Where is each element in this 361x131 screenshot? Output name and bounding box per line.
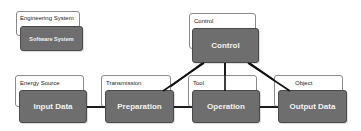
legend-engineering-system-label: Engineering System xyxy=(20,15,74,21)
output-data-node: Output Data xyxy=(278,90,347,123)
legend-software-system-label: Software System xyxy=(29,36,73,42)
control-node-label: Control xyxy=(211,41,239,50)
legend-software-system-box: Software System xyxy=(20,26,83,51)
operation-node-label: Operation xyxy=(207,102,245,111)
energy-source-category-label: Energy Source xyxy=(20,80,60,86)
control-category-label: Control xyxy=(194,18,213,24)
tool-category-label: Tool xyxy=(193,80,204,86)
output-data-node-label: Output Data xyxy=(290,102,336,111)
control-node: Control xyxy=(192,28,259,63)
operation-node: Operation xyxy=(192,90,260,123)
transmission-category-label: Transmission xyxy=(106,80,141,86)
preparation-node: Preparation xyxy=(105,90,174,123)
input-data-node-label: Input Data xyxy=(33,102,72,111)
object-category-label: Object xyxy=(295,80,312,86)
input-data-node: Input Data xyxy=(19,90,87,123)
preparation-node-label: Preparation xyxy=(117,102,161,111)
